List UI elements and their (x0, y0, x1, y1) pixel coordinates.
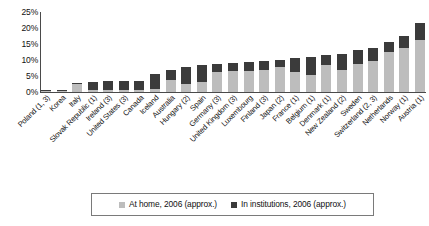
bar-segment-at-home (212, 72, 222, 92)
bar-segment-in-institutions (150, 74, 160, 89)
bar-segment-at-home (41, 91, 51, 92)
bar-segment-in-institutions (337, 54, 347, 70)
bar-segment-in-institutions (212, 64, 222, 72)
y-axis-tick-15: 15% (4, 40, 38, 49)
bar-segment-in-institutions (306, 57, 316, 76)
bar-column[interactable] (119, 12, 129, 92)
bar-segment-at-home (337, 70, 347, 92)
bar-column[interactable] (368, 12, 378, 92)
legend-swatch-in-institutions (231, 202, 237, 208)
bar-segment-at-home (321, 65, 331, 92)
bar-column[interactable] (41, 12, 51, 92)
bar-column[interactable] (290, 12, 300, 92)
bar-segment-at-home (415, 40, 425, 92)
chart-container: 25%20%15%10%5%0% Poland (1, 3)KoreaItaly… (0, 0, 429, 226)
bar-column[interactable] (415, 12, 425, 92)
bar-segment-at-home (72, 84, 82, 92)
bar-column[interactable] (259, 12, 269, 92)
bar-column[interactable] (337, 12, 347, 92)
bar-column[interactable] (275, 12, 285, 92)
bar-segment-in-institutions (399, 36, 409, 48)
bar-segment-in-institutions (166, 70, 176, 80)
y-axis-tick-10: 10% (4, 56, 38, 65)
bar-column[interactable] (181, 12, 191, 92)
bar-column[interactable] (150, 12, 160, 92)
bar-column[interactable] (197, 12, 207, 92)
y-axis-tick-25: 25% (4, 8, 38, 17)
bar-segment-in-institutions (181, 67, 191, 84)
bar-segment-at-home (368, 61, 378, 92)
bar-column[interactable] (306, 12, 316, 92)
bar-segment-in-institutions (119, 81, 129, 90)
bar-segment-in-institutions (244, 62, 254, 71)
bar-segment-at-home (306, 75, 316, 92)
bar-segment-at-home (119, 90, 129, 92)
bar-column[interactable] (244, 12, 254, 92)
bar-segment-at-home (275, 67, 285, 92)
bar-segment-at-home (166, 80, 176, 92)
bar-segment-in-institutions (415, 23, 425, 40)
bar-segment-in-institutions (103, 81, 113, 90)
bar-segment-at-home (57, 91, 67, 92)
bar-column[interactable] (353, 12, 363, 92)
bar-column[interactable] (166, 12, 176, 92)
bar-segment-in-institutions (368, 48, 378, 61)
y-axis-tick-0: 0% (4, 88, 38, 97)
bar-segment-in-institutions (197, 65, 207, 82)
bar-segment-in-institutions (290, 58, 300, 72)
bar-segment-at-home (88, 90, 98, 92)
x-axis-category-labels: Poland (1, 3)KoreaItalySlovak Republic (… (41, 94, 425, 184)
bar-segment-at-home (150, 89, 160, 92)
bar-segment-at-home (244, 71, 254, 92)
bar-column[interactable] (399, 12, 409, 92)
bar-segment-at-home (181, 84, 191, 92)
bar-segment-at-home (259, 70, 269, 92)
chart-legend: At home, 2006 (approx.) In institutions,… (91, 193, 374, 216)
bar-column[interactable] (384, 12, 394, 92)
y-axis-tick-5: 5% (4, 72, 38, 81)
legend-label-in-institutions: In institutions, 2006 (approx.) (241, 200, 346, 209)
bar-segment-in-institutions (228, 63, 238, 71)
legend-swatch-at-home (119, 202, 125, 208)
bar-segment-at-home (197, 82, 207, 92)
bar-segment-at-home (134, 90, 144, 92)
bar-column[interactable] (57, 12, 67, 92)
bar-column[interactable] (103, 12, 113, 92)
bar-segment-at-home (399, 48, 409, 92)
bar-segment-in-institutions (353, 50, 363, 64)
bar-segment-at-home (384, 52, 394, 92)
bar-column[interactable] (88, 12, 98, 92)
bar-segment-in-institutions (384, 42, 394, 52)
bar-column[interactable] (134, 12, 144, 92)
x-axis-line (40, 92, 426, 93)
legend-item-in-institutions: In institutions, 2006 (approx.) (231, 200, 346, 209)
bar-segment-in-institutions (321, 55, 331, 65)
bar-column[interactable] (72, 12, 82, 92)
bar-column[interactable] (228, 12, 238, 92)
bar-column[interactable] (321, 12, 331, 92)
bar-column[interactable] (212, 12, 222, 92)
bar-segment-in-institutions (134, 81, 144, 91)
bar-segment-at-home (290, 72, 300, 92)
legend-item-at-home: At home, 2006 (approx.) (119, 200, 217, 209)
bar-segment-in-institutions (88, 82, 98, 90)
bar-segment-in-institutions (259, 61, 269, 69)
bar-segment-at-home (103, 90, 113, 92)
legend-label-at-home: At home, 2006 (approx.) (129, 200, 217, 209)
bar-segment-at-home (353, 64, 363, 92)
bar-segment-in-institutions (275, 60, 285, 67)
bar-series-group (41, 12, 425, 92)
bar-segment-at-home (228, 71, 238, 92)
y-axis-tick-20: 20% (4, 24, 38, 33)
